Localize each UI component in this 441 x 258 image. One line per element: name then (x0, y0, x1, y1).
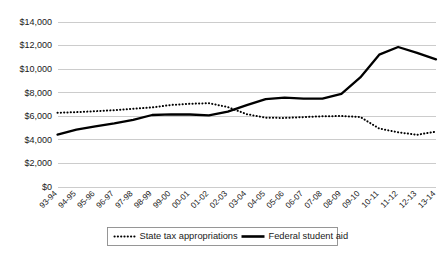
y-axis-tick-label: $8,000 (24, 88, 52, 98)
y-axis-tick-label: $14,000 (19, 17, 52, 27)
chart-background (0, 0, 441, 258)
y-axis-tick-label: $6,000 (24, 111, 52, 121)
chart-container: $0$2,000$4,000$6,000$8,000$10,000$12,000… (0, 0, 441, 258)
y-axis-tick-label: $4,000 (24, 135, 52, 145)
legend-label[interactable]: State tax appropriations (140, 231, 239, 241)
line-chart: $0$2,000$4,000$6,000$8,000$10,000$12,000… (0, 0, 441, 258)
y-axis-tick-label: $2,000 (24, 158, 52, 168)
y-axis-tick-label: $12,000 (19, 40, 52, 50)
legend-label[interactable]: Federal student aid (269, 231, 349, 241)
chart-legend: State tax appropriationsFederal student … (108, 228, 349, 246)
y-axis-tick-label: $10,000 (19, 64, 52, 74)
